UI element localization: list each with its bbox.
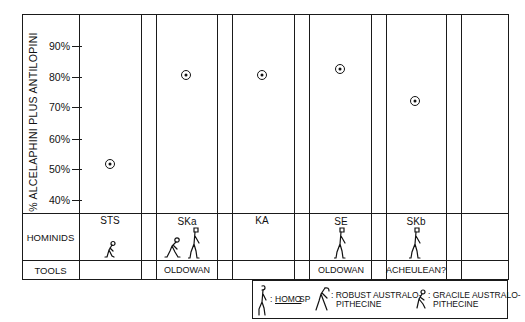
tick-mark: [72, 46, 82, 47]
homo-sp-icon: [257, 285, 271, 317]
legend-gracile-line2: PITHECINE: [433, 300, 478, 309]
tick-80: 80%: [30, 71, 70, 83]
tick-50: 50%: [30, 163, 70, 175]
homo-sp-icon: [409, 226, 425, 260]
data-point-se: [335, 64, 345, 74]
tick-mark: [72, 107, 82, 108]
tick-mark: [72, 77, 82, 78]
tick-mark: [72, 200, 82, 201]
tool-se: OLDOWAN: [318, 265, 364, 275]
tool-skb: ACHEULEAN?: [386, 265, 446, 275]
robust-australopithecine-icon: [164, 236, 184, 260]
row-label-hominids: HOMINIDS: [22, 232, 79, 243]
gracile-australopithecine-icon: [102, 240, 120, 260]
data-point-skb: [410, 96, 420, 106]
tick-mark: [72, 169, 82, 170]
data-point-sts: [105, 159, 115, 169]
tool-ska: OLDOWAN: [164, 265, 210, 275]
homo-sp-icon: [188, 226, 204, 260]
site-label-sts: STS: [100, 215, 119, 226]
row-label-tools: TOOLS: [22, 265, 79, 276]
legend-homo-colon: :: [270, 295, 272, 304]
data-point-ka: [257, 70, 267, 80]
tick-90: 90%: [30, 40, 70, 52]
legend-homo-label: HOMO: [275, 295, 301, 304]
legend-robust-line2: PITHECINE: [336, 300, 381, 309]
data-point-ska: [181, 70, 191, 80]
legend: : HOMO SP : ROBUST AUSTRALO- PITHECINE :…: [252, 280, 508, 319]
tick-40: 40%: [30, 194, 70, 206]
tick-60: 60%: [30, 133, 70, 145]
y-axis-label: % ALCELAPHINI PLUS ANTILOPINI: [27, 32, 39, 212]
tick-70: 70%: [30, 101, 70, 113]
legend-homo-sp-label: SP: [299, 295, 310, 304]
homo-sp-icon: [334, 226, 350, 260]
tick-mark: [72, 139, 82, 140]
gracile-australopithecine-icon: [415, 289, 429, 311]
site-label-ka: KA: [255, 215, 268, 226]
